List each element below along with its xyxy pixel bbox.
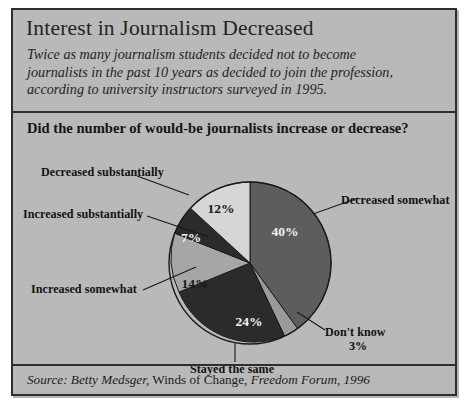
callout-increased-substantially[interactable]: Increased substantially <box>23 207 143 222</box>
source-publisher: Freedom Forum, 1996 <box>251 372 370 387</box>
pie-value-decreased-somewhat: 40% <box>272 224 299 239</box>
callout-decreased-substantially[interactable]: Decreased substantially <box>41 165 164 180</box>
pie-value-increased-substantially: 7% <box>181 230 201 245</box>
callout-decreased-somewhat[interactable]: Decreased somewhat <box>341 193 450 208</box>
source-author: Betty Medsger, <box>71 372 149 387</box>
divider-top <box>13 111 455 113</box>
pie-value-stayed-the-same: 24% <box>236 314 263 329</box>
figure-subtitle: Twice as many journalism students decide… <box>27 46 435 99</box>
callout-increased-somewhat[interactable]: Increased somewhat <box>31 282 137 297</box>
subtitle-line-2: journalists in the past 10 years as deci… <box>27 64 435 82</box>
subtitle-line-3: according to university instructors surv… <box>27 81 435 99</box>
page-title: Interest in Journalism Decreased <box>26 16 441 41</box>
source-label: Source: <box>27 372 68 387</box>
callout-dont-know[interactable]: Don't know <box>325 325 386 340</box>
callout-dont-know-percent: 3% <box>349 339 367 354</box>
source-line: Source: Betty Medsger, Winds of Change, … <box>27 372 370 388</box>
source-work: Winds of Change, <box>152 372 247 387</box>
chart-question: Did the number of would-be journalists i… <box>27 120 445 137</box>
pie-value-increased-somewhat: 14% <box>182 276 209 291</box>
figure-panel: Interest in Journalism Decreased Twice a… <box>11 8 457 396</box>
subtitle-line-1: Twice as many journalism students decide… <box>27 46 435 64</box>
divider-bottom <box>13 364 455 366</box>
pie-value-decreased-substantially: 12% <box>208 201 235 216</box>
